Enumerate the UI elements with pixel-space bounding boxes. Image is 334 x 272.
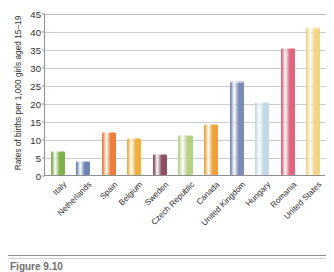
y-tick-label-10: 10	[30, 135, 41, 146]
bar-cap	[178, 134, 192, 136]
bar-cap	[153, 153, 167, 155]
x-axis-labels: ItalyNetherlandsSpainBelgiumSwedenCzech …	[44, 178, 325, 248]
x-tick-label-hungary: Hungary	[244, 180, 272, 208]
caption-divider-shadow	[8, 258, 326, 259]
bar-united-kingdom	[230, 81, 244, 175]
bar-series	[45, 13, 326, 175]
bar-sweden	[153, 154, 167, 175]
bar-united-states	[306, 27, 320, 175]
bar-cap	[230, 80, 244, 82]
x-tick-label-italy: Italy	[51, 180, 68, 197]
x-tick-label-belgium: Belgium	[117, 180, 144, 207]
bar-netherlands	[76, 161, 90, 175]
bar-cap	[281, 47, 295, 49]
bar-cap	[204, 123, 218, 125]
y-tick-label-35: 35	[30, 45, 41, 56]
caption-divider	[8, 255, 326, 256]
plot-area: 051015202530354045	[44, 14, 325, 176]
bar-cap	[51, 150, 65, 152]
figure-caption: Figure 9.10	[10, 261, 330, 272]
bar-czech-republic	[178, 135, 192, 175]
bar-spain	[102, 132, 116, 175]
bar-italy	[51, 151, 65, 175]
bar-romania	[281, 48, 295, 175]
bar-cap	[127, 137, 141, 139]
bar-belgium	[127, 138, 141, 175]
x-tick-label-spain: Spain	[98, 180, 119, 201]
bar-canada	[204, 124, 218, 175]
y-axis-title: Rates of births per 1,000 girls aged 15–…	[13, 8, 23, 178]
y-tick-label-40: 40	[30, 27, 41, 38]
bar-cap	[102, 131, 116, 133]
chart-figure: Rates of births per 1,000 girls aged 15–…	[0, 0, 334, 272]
y-tick-label-20: 20	[30, 99, 41, 110]
y-tick-label-45: 45	[30, 9, 41, 20]
bar-cap	[76, 160, 90, 162]
bar-cap	[306, 26, 320, 28]
bar-cap	[255, 100, 269, 102]
y-tick-label-0: 0	[36, 171, 41, 182]
y-tick-mark-0	[42, 176, 45, 177]
bar-hungary	[255, 102, 269, 175]
y-tick-label-30: 30	[30, 63, 41, 74]
y-tick-label-15: 15	[30, 117, 41, 128]
y-tick-label-5: 5	[36, 153, 41, 164]
y-tick-label-25: 25	[30, 81, 41, 92]
